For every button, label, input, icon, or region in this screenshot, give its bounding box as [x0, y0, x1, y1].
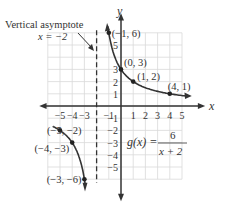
x-axis-label: x	[208, 99, 215, 113]
x-axis-left-arrow-icon	[39, 103, 46, 109]
curve-arrow-icon	[184, 93, 191, 100]
y-axis-down-arrow-icon	[118, 194, 124, 201]
point-label: (−4, −3)	[35, 143, 70, 155]
data-point	[107, 31, 112, 36]
data-point	[131, 79, 136, 84]
y-tick-label: −3	[107, 138, 118, 149]
point-label: (−1, 6)	[112, 28, 141, 40]
function-numerator: 6	[170, 129, 176, 141]
x-tick-label: 4	[167, 110, 172, 121]
data-point	[82, 177, 87, 182]
x-axis-right-arrow-icon	[198, 103, 205, 109]
point-label: (−5, −2)	[47, 125, 82, 137]
x-tick-label: 1	[131, 110, 136, 121]
y-axis-label: y	[116, 4, 123, 18]
curve-arrow-icon	[83, 183, 88, 192]
y-tick-label: 2	[113, 77, 118, 88]
y-tick-label: 5	[113, 40, 118, 51]
y-tick-label: −1	[107, 113, 118, 124]
y-tick-label: 3	[113, 64, 118, 75]
y-tick-label: 1	[113, 89, 118, 100]
y-tick-label: −2	[107, 125, 118, 136]
x-tick-label: 3	[155, 110, 160, 121]
data-point	[168, 92, 173, 97]
function-name: g(x) =	[127, 135, 157, 149]
asymptote-pointer-arrow	[78, 33, 92, 48]
asymptote-equation: x = −2	[37, 31, 68, 42]
y-tick-label: −4	[107, 150, 118, 161]
point-label: (4, 1)	[168, 81, 191, 93]
point-label: (−3, −6)	[47, 174, 82, 186]
data-point	[70, 140, 75, 145]
point-label: (1, 2)	[137, 71, 160, 83]
x-tick-label: −5	[55, 110, 66, 121]
x-tick-label: 5	[180, 110, 185, 121]
y-tick-label: −5	[107, 162, 118, 173]
function-curves	[53, 23, 192, 191]
function-graph: −5−4−3−1123455321−1−2−3−4−5 (−1, 6)(0, 3…	[0, 0, 226, 202]
point-label: (0, 3)	[124, 57, 147, 69]
function-denominator: x + 2	[158, 145, 183, 157]
x-tick-label: −3	[79, 110, 90, 121]
asymptote-label: Vertical asymptote	[5, 19, 84, 30]
x-tick-label: 2	[143, 110, 148, 121]
x-tick-label: −4	[67, 110, 78, 121]
curve-arrow-icon	[105, 23, 110, 32]
data-point	[119, 67, 124, 72]
